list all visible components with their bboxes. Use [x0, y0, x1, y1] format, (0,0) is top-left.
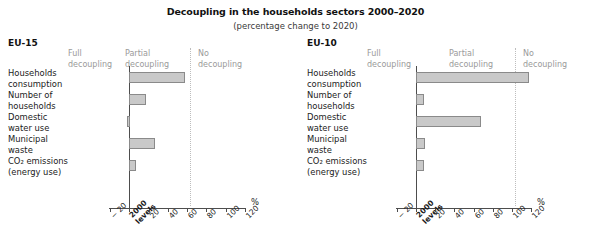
x-axis-tick-label: 100 [511, 204, 528, 221]
figure-subtitle: (percentage change to 2020) [0, 21, 591, 31]
panel-eu10: EU-10 Full decoupling Partial decoupling… [299, 36, 591, 238]
panel-title-eu15: EU-15 [8, 38, 38, 48]
zone-label-no-decoupling: No decoupling [198, 48, 242, 70]
bar [416, 72, 529, 83]
zone-label-full-decoupling: Full decoupling [367, 48, 411, 70]
bar [416, 94, 424, 105]
bar [129, 138, 155, 149]
axis-unit-label: % [537, 197, 545, 207]
x-axis-tick-label: − 20 [396, 201, 415, 220]
bar [127, 116, 130, 127]
figure-title: Decoupling in the households sectors 200… [0, 6, 591, 17]
zone-label-partial-decoupling: Partial decoupling [125, 48, 169, 70]
zone-label-no-decoupling: No decoupling [523, 48, 567, 70]
zero-reference-line [416, 66, 417, 208]
zone-label-partial-decoupling: Partial decoupling [449, 48, 493, 70]
axis-unit-label: % [251, 197, 259, 207]
zero-reference-line [129, 66, 130, 208]
plot-area-eu15: − 202000levels20406080100120% [0, 68, 292, 208]
bar [129, 160, 136, 171]
bar [129, 72, 185, 83]
no-decoupling-threshold-line [190, 48, 191, 206]
bar [416, 116, 481, 127]
bar [129, 94, 145, 105]
bar [416, 160, 424, 171]
x-axis-tick-label: 100 [225, 204, 242, 221]
x-axis-tick-label: − 20 [109, 201, 128, 220]
panel-title-eu10: EU-10 [307, 38, 337, 48]
plot-area-eu10: − 202000levels20406080100120% [299, 68, 591, 208]
panel-eu15: EU-15 Full decoupling Partial decoupling… [0, 36, 292, 238]
zone-label-full-decoupling: Full decoupling [68, 48, 112, 70]
bar [416, 138, 425, 149]
